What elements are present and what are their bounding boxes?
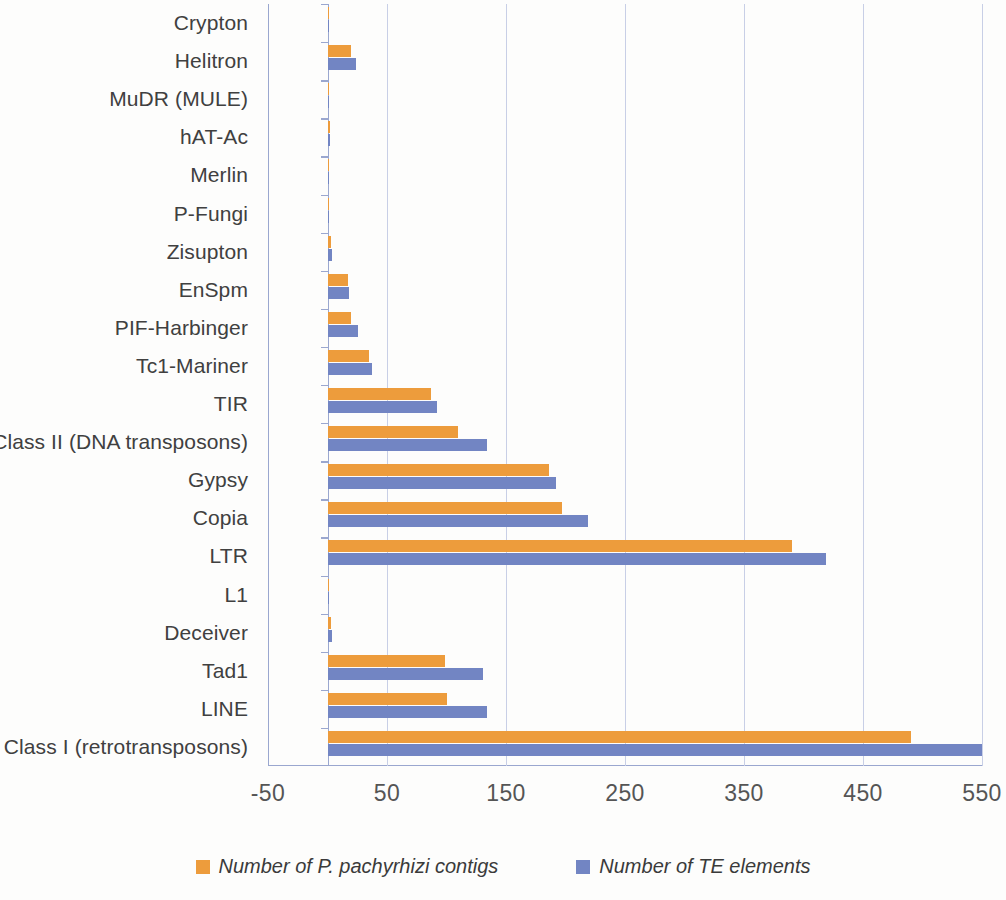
bar-contigs [328, 350, 370, 362]
bar-te-elements [328, 477, 556, 489]
bar-contigs [328, 655, 446, 667]
category-label: Class I (retrotransposons) [4, 736, 248, 757]
legend-label: Number of P. pachyrhizi contigs [219, 855, 499, 878]
bar-te-elements [328, 401, 437, 413]
bar-contigs [328, 693, 447, 705]
bar-te-elements [328, 592, 329, 604]
category-label: Gypsy [188, 469, 248, 490]
bar-contigs [328, 312, 352, 324]
value-axis-tick-label: -50 [251, 780, 285, 807]
bar-row [268, 537, 982, 575]
category-axis-labels: CryptonHelitronMuDR (MULE)hAT-AcMerlinP-… [0, 4, 258, 766]
category-label: Helitron [175, 50, 248, 71]
value-axis-tick-label: 450 [843, 780, 883, 807]
bar-te-elements [328, 325, 359, 337]
bar-row [268, 42, 982, 80]
bar-contigs [328, 617, 332, 629]
category-label: PIF-Harbinger [115, 317, 248, 338]
bar-row [268, 309, 982, 347]
bar-contigs [328, 579, 329, 591]
bar-contigs [328, 274, 348, 286]
category-label: EnSpm [179, 279, 248, 300]
category-label: Deceiver [164, 622, 248, 643]
bar-row [268, 614, 982, 652]
bar-contigs [328, 502, 562, 514]
bar-row [268, 80, 982, 118]
bar-te-elements [328, 134, 330, 146]
bar-te-elements [328, 249, 333, 261]
bar-rows [268, 4, 982, 766]
category-label: Crypton [174, 12, 248, 33]
bar-contigs [328, 159, 329, 171]
bar-contigs [328, 236, 332, 248]
bar-te-elements [328, 744, 983, 756]
bar-contigs [328, 731, 911, 743]
bar-row [268, 4, 982, 42]
blue-swatch [576, 860, 590, 874]
category-label: LTR [210, 545, 248, 566]
bar-contigs [328, 83, 329, 95]
category-label: Class II (DNA transposons) [0, 431, 248, 452]
bar-te-elements [328, 515, 589, 527]
value-axis-tick-label: 550 [962, 780, 1002, 807]
bar-row [268, 499, 982, 537]
bar-te-elements [328, 172, 329, 184]
bar-contigs [328, 7, 329, 19]
bar-row [268, 118, 982, 156]
category-label: P-Fungi [174, 203, 248, 224]
category-label: Zisupton [167, 241, 248, 262]
bar-row [268, 652, 982, 690]
bar-row [268, 690, 982, 728]
bar-te-elements [328, 706, 487, 718]
category-label: TIR [214, 393, 248, 414]
bar-te-elements [328, 630, 333, 642]
bar-row [268, 461, 982, 499]
bar-te-elements [328, 553, 827, 565]
value-axis-tick-label: 50 [374, 780, 400, 807]
legend-label: Number of TE elements [599, 855, 810, 878]
category-label: LINE [201, 698, 248, 719]
bar-contigs [328, 121, 330, 133]
bar-chart: CryptonHelitronMuDR (MULE)hAT-AcMerlinP-… [0, 0, 1006, 900]
bar-row [268, 195, 982, 233]
category-label: L1 [224, 584, 248, 605]
category-label: Copia [193, 507, 248, 528]
plot-area [268, 4, 982, 766]
bar-row [268, 233, 982, 271]
bar-contigs [328, 45, 352, 57]
bar-te-elements [328, 58, 357, 70]
chart-legend: Number of P. pachyrhizi contigsNumber of… [0, 855, 1006, 878]
bar-te-elements [328, 96, 329, 108]
bar-te-elements [328, 20, 329, 32]
category-label: hAT-Ac [180, 126, 248, 147]
category-label: Tc1-Mariner [136, 355, 248, 376]
category-label: MuDR (MULE) [109, 88, 248, 109]
bar-contigs [328, 426, 459, 438]
category-label: Merlin [190, 164, 248, 185]
orange-swatch [196, 860, 210, 874]
bar-row [268, 385, 982, 423]
value-axis-tick-label: 150 [486, 780, 526, 807]
legend-item[interactable]: Number of P. pachyrhizi contigs [196, 855, 499, 878]
bar-row [268, 347, 982, 385]
bar-contigs [328, 198, 329, 210]
bar-row [268, 576, 982, 614]
bar-te-elements [328, 439, 487, 451]
bar-te-elements [328, 211, 329, 223]
bar-row [268, 423, 982, 461]
bar-te-elements [328, 668, 484, 680]
category-label: Tad1 [202, 660, 248, 681]
bar-te-elements [328, 287, 349, 299]
bar-contigs [328, 540, 792, 552]
legend-item[interactable]: Number of TE elements [576, 855, 810, 878]
value-axis-tick-label: 350 [724, 780, 764, 807]
value-axis-tick-label: 250 [605, 780, 645, 807]
bar-row [268, 728, 982, 766]
bar-row [268, 156, 982, 194]
gridline [982, 4, 983, 766]
bar-row [268, 271, 982, 309]
bar-contigs [328, 464, 549, 476]
bar-te-elements [328, 363, 372, 375]
bar-contigs [328, 388, 432, 400]
